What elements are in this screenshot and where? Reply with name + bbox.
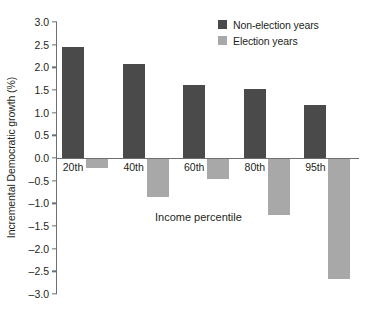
bar <box>207 158 229 179</box>
legend-label: Election years <box>233 35 298 47</box>
y-tick-label: 1.5 <box>34 84 49 96</box>
chart-legend: Non-election yearsElection years <box>218 17 319 49</box>
x-category-label: 80th <box>245 161 265 173</box>
y-tick-label: –1.0 <box>29 197 49 209</box>
bar <box>86 158 108 168</box>
x-category-label: 20th <box>63 161 83 173</box>
bar-chart: Incremental Democratic growth (%) 3.02.5… <box>0 0 367 315</box>
zero-baseline <box>56 158 359 159</box>
bar <box>123 64 145 158</box>
y-tick-label: 2.5 <box>34 39 49 51</box>
bar <box>328 158 350 279</box>
x-category-label: 60th <box>184 161 204 173</box>
legend-item: Non-election years <box>218 17 319 32</box>
y-tick-label: 0.5 <box>34 129 49 141</box>
y-tick-label: –2.5 <box>29 265 49 277</box>
x-axis-label: Income percentile <box>155 211 242 223</box>
legend-swatch-icon <box>218 36 227 45</box>
bar <box>147 158 169 197</box>
y-tick-label: –0.5 <box>29 175 49 187</box>
legend-swatch-icon <box>218 20 227 29</box>
y-tick-label: 0.0 <box>34 152 49 164</box>
y-tick-label: –2.0 <box>29 243 49 255</box>
x-category-label: 40th <box>123 161 143 173</box>
y-axis-title: Incremental Democratic growth (%) <box>0 0 22 315</box>
y-tick-label: 3.0 <box>34 16 49 28</box>
legend-item: Election years <box>218 33 319 48</box>
y-tick-label: 2.0 <box>34 61 49 73</box>
x-category-label: 95th <box>305 161 325 173</box>
y-axis-tick-labels: 3.02.52.01.51.00.50.0–0.5–1.0–1.5–2.0–2.… <box>22 22 53 294</box>
y-tick-label: 1.0 <box>34 107 49 119</box>
y-tick-label: –1.5 <box>29 220 49 232</box>
bar <box>62 47 84 158</box>
bar <box>268 158 290 215</box>
legend-label: Non-election years <box>233 19 319 31</box>
bar <box>244 89 266 158</box>
y-tick-label: –3.0 <box>29 288 49 300</box>
bar <box>304 105 326 158</box>
bar <box>183 85 205 158</box>
